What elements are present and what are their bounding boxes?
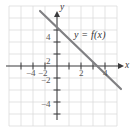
coordinate-plane	[0, 0, 131, 137]
y-tick-label-4: 4	[46, 33, 51, 42]
x-tick-label-4: 4	[103, 69, 108, 78]
y-tick-label-2: 2	[46, 57, 51, 66]
function-equation-label: y = f(x)	[74, 30, 106, 40]
x-tick-label-2: 2	[79, 69, 84, 78]
y-tick-label-neg2: −2	[41, 76, 51, 85]
graph-figure: −4 −2 2 4 4 2 −2 −4 x y y = f(x)	[0, 0, 131, 137]
y-axis-label: y	[60, 3, 64, 13]
x-tick-label-neg4: −4	[26, 69, 36, 78]
y-tick-label-neg4: −4	[41, 100, 51, 109]
x-axis-label: x	[125, 61, 129, 71]
